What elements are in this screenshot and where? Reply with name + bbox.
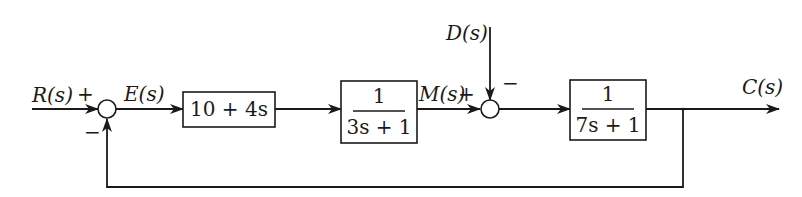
plant2-numerator: 1 [602,82,615,106]
block-diagram: R(s) + − E(s) 10 + 4s 1 3s + 1 M(s) + D(… [0,0,802,197]
plant1-numerator: 1 [373,84,386,108]
summing-junction-1 [98,100,116,118]
disturbance-signal-label: D(s) [445,21,488,45]
sum1-minus-sign: − [84,120,101,144]
input-signal-label: R(s) [31,83,73,107]
plant1-denominator: 3s + 1 [346,115,411,139]
output-signal-label: C(s) [742,75,783,99]
summing-junction-2 [481,100,499,118]
sum2-minus-sign: − [502,71,519,95]
sum1-plus-sign: + [77,82,94,106]
plant2-denominator: 7s + 1 [575,113,640,137]
feedback-branch-point [682,108,684,110]
sum2-plus-sign: + [458,82,475,106]
controller-expression: 10 + 4s [190,97,268,121]
error-signal-label: E(s) [123,82,164,106]
